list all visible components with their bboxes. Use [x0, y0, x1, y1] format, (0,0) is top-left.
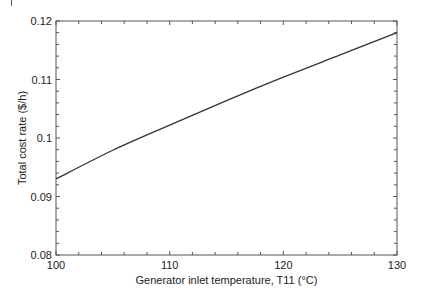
x-axis-title: Generator inlet temperature, T11 (°C) — [136, 274, 318, 286]
x-tick-label: 110 — [161, 259, 179, 271]
series-line — [56, 33, 397, 179]
y-tick-label: 0.11 — [31, 74, 52, 86]
y-axis-title: Total cost rate ($/h) — [16, 91, 28, 185]
x-tick-label: 130 — [388, 259, 406, 271]
x-tick-label: 120 — [274, 259, 292, 271]
plot-frame — [56, 21, 397, 255]
y-tick-label: 0.1 — [37, 132, 52, 144]
y-tick-label: 0.09 — [31, 191, 52, 203]
line-chart: 1001101201300.080.090.10.110.12Generator… — [0, 0, 423, 298]
y-tick-label: 0.12 — [31, 15, 52, 27]
y-tick-label: 0.08 — [31, 249, 52, 261]
